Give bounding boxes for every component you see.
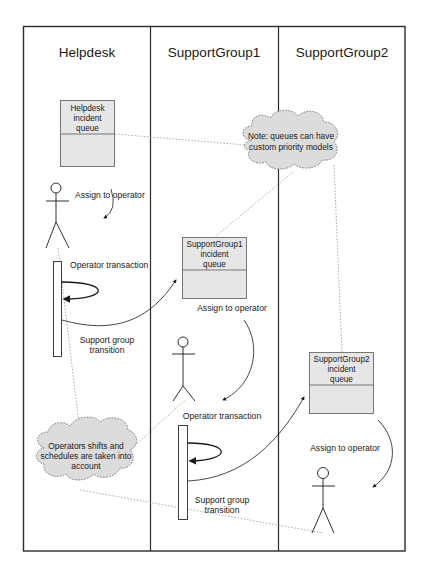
- label-helpdesk-transition-1: Support group: [80, 335, 135, 345]
- label-helpdesk-transaction: Operator transaction: [70, 260, 149, 270]
- queue-label-line: SupportGroup1: [187, 240, 243, 249]
- note-text-line: account: [71, 461, 101, 471]
- label-sg1-transition-1: Support group: [195, 495, 250, 505]
- arrow-helpdesk-to-sg1-transition: [62, 280, 176, 326]
- queue-label-line: SupportGroup2: [314, 355, 370, 364]
- label-helpdesk-transition-2: transition: [90, 345, 125, 355]
- queue-label-line: incident: [73, 114, 102, 123]
- note-text-line: Note: queues can have: [248, 131, 334, 141]
- note-text-line: custom priority models: [249, 142, 333, 152]
- supportgroup2-incident-queue: SupportGroup2 incident queue: [310, 353, 374, 414]
- label-sg1-transition-2: transition: [205, 505, 240, 515]
- note-link-helpdesk-queue: [115, 134, 245, 145]
- note-text-line: Operators shifts and: [48, 441, 124, 451]
- incident-flow-swimlane-diagram: Helpdesk SupportGroup1 SupportGroup2 Hel…: [0, 0, 425, 570]
- supportgroup1-operator-actor: [172, 337, 195, 401]
- actor-leg: [312, 508, 323, 533]
- label-sg1-assign: Assign to operator: [197, 303, 267, 313]
- actor-leg: [46, 222, 56, 248]
- arrow-sg2-assign: [373, 420, 392, 487]
- note-text-line: schedules are taken into: [41, 451, 132, 461]
- queue-label-line: Helpdesk: [70, 104, 105, 113]
- queue-label-line: incident: [327, 365, 356, 374]
- actor-leg: [173, 386, 183, 401]
- actor-leg: [323, 508, 334, 533]
- queue-label-line: incident: [200, 250, 229, 259]
- actor-head-icon: [318, 468, 329, 479]
- supportgroup1-incident-queue: SupportGroup1 incident queue: [183, 238, 247, 299]
- label-helpdesk-assign: Assign to operator: [75, 190, 145, 200]
- actor-head-icon: [178, 337, 188, 347]
- queue-label-line: queue: [203, 260, 226, 269]
- lane-title-supportgroup1: SupportGroup1: [168, 45, 260, 60]
- queue-label-line: queue: [76, 124, 99, 133]
- arrow-helpdesk-self-transaction: [62, 282, 98, 299]
- arrow-sg1-self-transaction: [188, 443, 221, 461]
- actor-head-icon: [51, 183, 61, 193]
- sg1-activation-bar: [179, 426, 188, 520]
- helpdesk-activation-bar: [54, 262, 62, 357]
- arrow-sg1-to-sg2-transition: [188, 397, 304, 481]
- note-priority-models: Note: queues can have custom priority mo…: [243, 110, 338, 169]
- label-sg2-assign: Assign to operator: [310, 443, 380, 453]
- helpdesk-incident-queue: Helpdesk incident queue: [61, 101, 115, 167]
- supportgroup2-operator-actor: [312, 468, 335, 534]
- label-sg1-transaction: Operator transaction: [183, 411, 262, 421]
- actor-leg: [183, 386, 195, 401]
- figure-caption-cropped: [112, 565, 262, 570]
- note-operator-shifts: Operators shifts and schedules are taken…: [37, 417, 137, 480]
- note-link-sg2-queue: [334, 165, 342, 352]
- lane-title-helpdesk: Helpdesk: [59, 45, 116, 60]
- actor-leg: [56, 222, 69, 248]
- helpdesk-operator-actor: [46, 183, 69, 248]
- arrow-sg1-assign: [223, 320, 254, 400]
- note-link-sg1-actor: [130, 400, 185, 450]
- lane-title-supportgroup2: SupportGroup2: [296, 45, 388, 60]
- queue-label-line: queue: [330, 375, 353, 384]
- note-link-sg1-queue: [215, 172, 293, 237]
